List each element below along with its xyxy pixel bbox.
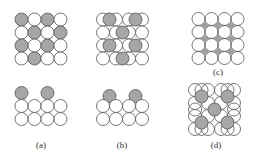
panel-b-side-view: [97, 90, 149, 126]
panel-d-top-view: [189, 84, 241, 136]
panel-c-label: (c): [213, 67, 223, 77]
panel-b-label: (b): [117, 140, 128, 150]
panel-a-top-view: [15, 13, 67, 65]
panel-b-top-view: [97, 13, 149, 65]
panel-d-label: (d): [211, 140, 222, 150]
panel-a-side-view: [15, 87, 67, 126]
panel-a-label: (a): [36, 140, 46, 150]
panel-c-top-view: [192, 13, 244, 65]
diagram-canvas: [0, 0, 262, 162]
